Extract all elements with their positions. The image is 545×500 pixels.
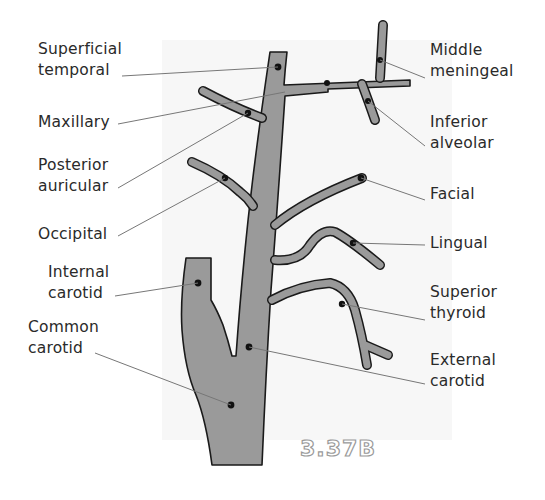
label-occipital: Occipital (38, 224, 107, 245)
label-facial: Facial (430, 184, 475, 205)
label-lingual: Lingual (430, 233, 488, 254)
label-maxillary: Maxillary (38, 112, 110, 133)
label-superficial-temporal: Superficial temporal (38, 39, 122, 81)
label-external-carotid: External carotid (430, 350, 496, 392)
label-middle-meningeal: Middle meningeal (430, 40, 514, 82)
label-internal-carotid: Internal carotid (48, 262, 109, 304)
figure-number: 3.37B (300, 436, 376, 461)
label-common-carotid: Common carotid (28, 317, 99, 359)
label-superior-thyroid: Superior thyroid (430, 282, 497, 324)
label-posterior-auricular: Posterior auricular (38, 155, 108, 197)
label-inferior-alveolar: Inferior alveolar (430, 112, 494, 154)
